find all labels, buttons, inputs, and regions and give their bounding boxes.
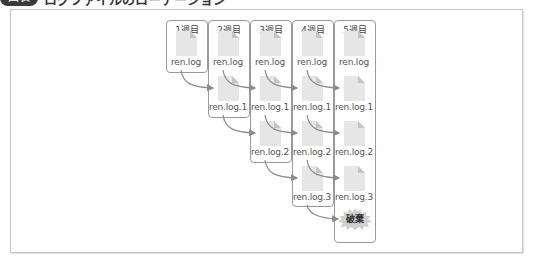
file-name: ren.log <box>248 57 292 67</box>
document-icon <box>218 76 239 101</box>
document-icon <box>260 121 281 146</box>
document-icon <box>302 31 323 56</box>
document-icon <box>302 76 323 101</box>
file-name: ren.log.1 <box>206 102 250 112</box>
file-name: ren.log.1 <box>290 102 334 112</box>
document-icon <box>344 31 365 56</box>
discard-label: 破棄 <box>338 212 372 225</box>
file-name: ren.log <box>290 57 334 67</box>
file-name: ren.log <box>332 57 376 67</box>
file-name: ren.log <box>206 57 250 67</box>
document-icon <box>176 31 197 56</box>
document-icon <box>302 121 323 146</box>
document-icon <box>344 121 365 146</box>
document-icon <box>260 31 281 56</box>
figure-title: ログファイルのローテーション <box>44 0 226 8</box>
file-name: ren.log <box>164 57 208 67</box>
file-name: ren.log.2 <box>290 147 334 157</box>
document-icon <box>218 31 239 56</box>
file-name: ren.log.1 <box>248 102 292 112</box>
document-icon <box>344 166 365 191</box>
file-name: ren.log.1 <box>332 102 376 112</box>
document-icon <box>344 76 365 101</box>
file-name: ren.log.3 <box>290 192 334 202</box>
file-name: ren.log.2 <box>248 147 292 157</box>
figure-heading: 図表 ログファイルのローテーション <box>0 0 226 6</box>
file-name: ren.log.2 <box>332 147 376 157</box>
file-name: ren.log.3 <box>332 192 376 202</box>
figure-badge: 図表 <box>0 0 38 6</box>
document-icon <box>302 166 323 191</box>
document-icon <box>260 76 281 101</box>
